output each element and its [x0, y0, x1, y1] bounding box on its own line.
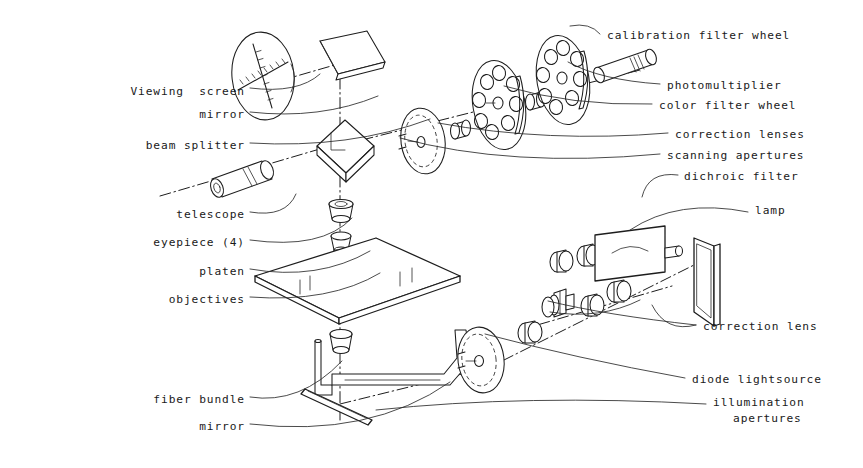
telescope-tube	[208, 159, 276, 199]
label-fiber-bundle: fiber bundle	[40, 393, 245, 406]
label-viewing-screen: Viewing screen	[40, 85, 245, 98]
label-correction-lenses: correction lenses	[675, 128, 805, 141]
lamp-housing	[595, 226, 683, 281]
label-objectives: objectives	[40, 293, 245, 306]
relay-lens-a	[451, 120, 471, 139]
calibration-filter-wheel-disc	[530, 31, 597, 129]
lamp-relay-lenses	[550, 244, 600, 272]
label-mirror-bottom: mirror	[40, 420, 245, 433]
platen-plate	[255, 238, 460, 324]
label-illumination-apertures-line1: illumination	[713, 396, 805, 410]
label-scanning-apertures: scanning apertures	[667, 149, 804, 162]
label-illumination-apertures-line2: apertures	[733, 412, 802, 426]
label-beam-splitter: beam splitter	[40, 139, 245, 152]
label-lamp: lamp	[755, 204, 786, 217]
label-color-filter-wheel: color filter wheel	[659, 99, 796, 112]
label-dichroic-filter: dichroic filter	[684, 170, 799, 183]
label-eyepiece: eyepiece (4)	[40, 236, 245, 249]
label-telescope: telescope	[40, 208, 245, 221]
photomultiplier-tube	[592, 48, 659, 84]
diagram-canvas: .s{fill:none;stroke:#1d1d1d;stroke-width…	[0, 0, 863, 468]
beam-splitter-cube	[317, 120, 374, 182]
illumination-relay-lenses	[518, 280, 631, 343]
label-mirror-top: mirror	[40, 108, 245, 121]
label-photomultiplier: photomultiplier	[667, 79, 782, 92]
label-diode-lightsource: diode lightsource	[692, 373, 822, 386]
bottom-mirror	[301, 389, 372, 425]
scanning-aperture-disc	[397, 105, 450, 176]
fold-mirror-plate	[320, 31, 385, 80]
label-correction-lens: correction lens	[703, 320, 818, 333]
dichroic-filter-plate	[694, 238, 720, 326]
label-platen: platen	[40, 265, 245, 278]
label-calibration-filter-wheel: calibration filter wheel	[607, 29, 790, 42]
color-filter-wheel-disc	[466, 56, 533, 154]
